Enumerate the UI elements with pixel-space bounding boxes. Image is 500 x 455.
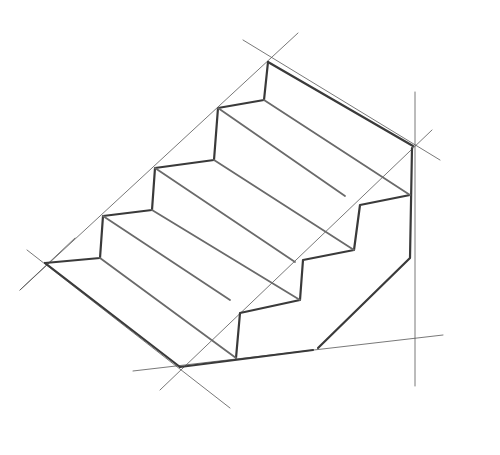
top-back-edge [268, 62, 413, 146]
right-diagonal-guide [160, 130, 432, 390]
base-edge [180, 350, 313, 367]
tread-4-back [218, 108, 345, 196]
tread-4-nosing [264, 100, 410, 195]
tread-3-nosing [214, 160, 354, 250]
tread-3-back [155, 168, 295, 262]
staircase-sketch [0, 0, 500, 455]
tread-lines [100, 100, 410, 358]
tread-2-nosing [152, 210, 300, 300]
stair-edges [45, 62, 413, 367]
right-wall-edge [318, 148, 412, 348]
tread-1-nosing [100, 258, 236, 358]
top-cross-guide [243, 40, 440, 160]
bottom-front-edge [45, 263, 180, 367]
tread-2-back [103, 216, 230, 300]
construction-guides [20, 33, 443, 408]
left-diagonal-guide [20, 33, 298, 290]
